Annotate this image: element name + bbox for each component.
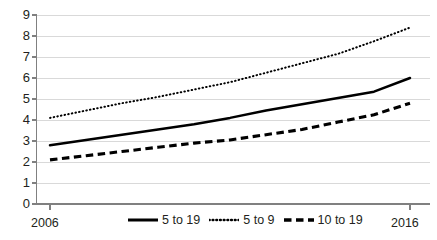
y-axis-tick-label: 4 xyxy=(8,113,30,126)
legend-label: 10 to 19 xyxy=(318,214,363,227)
y-axis-tick-label: 1 xyxy=(8,176,30,189)
y-axis-tick-label: 6 xyxy=(8,71,30,84)
legend-label: 5 to 19 xyxy=(162,214,200,227)
legend-label: 5 to 9 xyxy=(243,214,274,227)
series-lines xyxy=(50,28,410,160)
legend-item[interactable]: 5 to 19 xyxy=(128,212,200,228)
y-axis-tick-label: 9 xyxy=(8,8,30,21)
legend-item[interactable]: 5 to 9 xyxy=(209,212,274,228)
y-axis-tick-label: 3 xyxy=(8,134,30,147)
x-axis-ticks xyxy=(50,204,410,210)
y-axis-tick-label: 8 xyxy=(8,29,30,42)
x-axis-tick-label: 2006 xyxy=(31,217,59,230)
y-axis-tick-label: 7 xyxy=(8,50,30,63)
plot-area xyxy=(0,0,437,240)
line-chart: 9876543210 20062016 5 to 195 to 910 to 1… xyxy=(0,0,437,240)
legend-swatch-dashed-icon xyxy=(284,215,314,225)
series-line-1 xyxy=(50,28,410,118)
x-axis-tick-label: 2016 xyxy=(391,217,419,230)
y-axis-tick-label: 0 xyxy=(8,197,30,210)
y-axis-tick-label: 5 xyxy=(8,92,30,105)
y-axis-tick-label: 2 xyxy=(8,155,30,168)
chart-legend: 5 to 195 to 910 to 19 xyxy=(128,212,363,228)
series-line-2 xyxy=(50,103,410,160)
series-line-0 xyxy=(50,78,410,145)
legend-item[interactable]: 10 to 19 xyxy=(284,212,363,228)
legend-swatch-dotted-icon xyxy=(209,215,239,225)
legend-swatch-solid-icon xyxy=(128,215,158,225)
